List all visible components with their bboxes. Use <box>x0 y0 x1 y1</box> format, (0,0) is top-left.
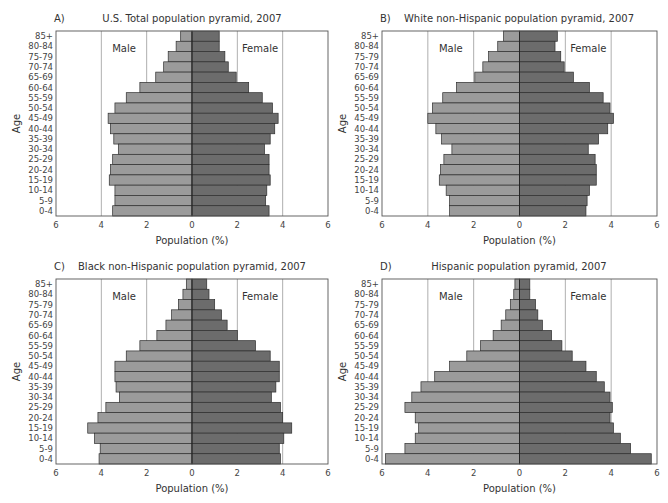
age-tick-label: 80-84 <box>28 289 53 299</box>
male-bar <box>156 72 192 82</box>
age-tick-label: 70-74 <box>28 310 53 320</box>
age-tick-label: 75-79 <box>354 52 379 62</box>
age-tick-label: 85+ <box>361 279 379 289</box>
female-label: Female <box>570 291 606 302</box>
male-bar <box>115 103 192 113</box>
male-bar <box>113 154 192 164</box>
age-tick-label: 5-9 <box>39 444 53 454</box>
age-tick-label: 35-39 <box>28 134 53 144</box>
chart-title: Hispanic population pyramid, 2007 <box>431 261 606 272</box>
female-bar <box>520 62 565 72</box>
female-bar <box>520 351 573 361</box>
female-bar <box>192 402 280 412</box>
age-tick-label: 5-9 <box>365 196 379 206</box>
female-bar <box>192 382 276 392</box>
age-tick-label: 20-24 <box>28 413 53 423</box>
female-bar <box>520 392 611 402</box>
female-bar <box>520 165 597 175</box>
male-bar <box>113 206 192 216</box>
x-tick-label: 2 <box>471 220 476 230</box>
male-bar <box>452 144 520 154</box>
female-bar <box>192 144 265 154</box>
male-bar <box>444 154 520 164</box>
age-tick-label: 85+ <box>35 31 53 41</box>
male-bar <box>166 320 192 330</box>
female-label: Female <box>570 43 606 54</box>
female-bar <box>520 279 530 289</box>
female-bar <box>520 300 536 310</box>
chart-title: Black non-Hispanic population pyramid, 2… <box>78 261 306 272</box>
female-bar <box>520 82 590 92</box>
female-bar <box>520 454 652 464</box>
chart-title: U.S. Total population pyramid, 2007 <box>102 13 281 24</box>
male-bar <box>412 392 520 402</box>
age-tick-label: 70-74 <box>354 310 379 320</box>
male-bar <box>498 41 520 51</box>
female-bar <box>192 413 283 423</box>
female-bar <box>520 310 538 320</box>
x-tick-label: 4 <box>425 468 430 478</box>
male-bar <box>126 93 192 103</box>
x-tick-label: 4 <box>99 468 104 478</box>
male-bar <box>100 443 192 453</box>
age-tick-label: 25-29 <box>354 154 379 164</box>
male-bar <box>119 392 192 402</box>
age-tick-label: 30-34 <box>28 144 53 154</box>
male-bar <box>443 93 520 103</box>
male-bar <box>440 165 519 175</box>
age-tick-label: 20-24 <box>354 165 379 175</box>
age-tick-label: 0-4 <box>365 454 379 464</box>
female-bar <box>520 372 597 382</box>
male-bar <box>116 382 192 392</box>
female-bar <box>520 433 621 443</box>
age-tick-label: 40-44 <box>354 372 379 382</box>
male-bar <box>183 289 192 299</box>
male-bar <box>481 341 520 351</box>
female-bar <box>192 82 249 92</box>
female-bar <box>520 330 552 340</box>
age-tick-label: 0-4 <box>39 454 53 464</box>
male-bar <box>515 279 520 289</box>
male-bar <box>99 454 192 464</box>
age-tick-label: 75-79 <box>354 300 379 310</box>
y-axis-label: Age <box>11 114 22 133</box>
female-bar <box>520 402 613 412</box>
male-bar <box>164 62 192 72</box>
male-bar <box>118 144 192 154</box>
male-bar <box>115 361 192 371</box>
x-tick-label: 6 <box>53 220 58 230</box>
age-tick-label: 25-29 <box>354 402 379 412</box>
pyramid-panel-b: B)White non-Hispanic population pyramid,… <box>334 0 668 252</box>
age-tick-label: 60-64 <box>28 331 53 341</box>
panel-label: C) <box>54 261 65 272</box>
y-axis-label: Age <box>11 362 22 381</box>
male-bar <box>172 310 192 320</box>
panel-label: D) <box>380 261 392 272</box>
male-bar <box>436 124 520 134</box>
female-bar <box>192 310 221 320</box>
female-bar <box>192 72 236 82</box>
male-bar <box>181 31 192 41</box>
x-tick-label: 6 <box>53 468 58 478</box>
age-tick-label: 30-34 <box>354 392 379 402</box>
female-bar <box>192 31 219 41</box>
female-bar <box>192 185 267 195</box>
male-bar <box>415 413 519 423</box>
male-bar <box>450 206 520 216</box>
age-tick-label: 65-69 <box>354 320 379 330</box>
female-bar <box>192 113 278 123</box>
age-tick-label: 5-9 <box>39 196 53 206</box>
male-bar <box>475 72 520 82</box>
female-bar <box>520 41 556 51</box>
male-bar <box>110 124 192 134</box>
female-bar <box>192 330 237 340</box>
male-label: Male <box>439 43 463 54</box>
x-tick-label: 4 <box>608 468 613 478</box>
age-tick-label: 80-84 <box>354 41 379 51</box>
male-bar <box>178 300 192 310</box>
age-tick-label: 80-84 <box>28 41 53 51</box>
female-bar <box>520 382 605 392</box>
male-bar <box>110 165 192 175</box>
male-bar <box>467 351 520 361</box>
female-bar <box>192 124 275 134</box>
